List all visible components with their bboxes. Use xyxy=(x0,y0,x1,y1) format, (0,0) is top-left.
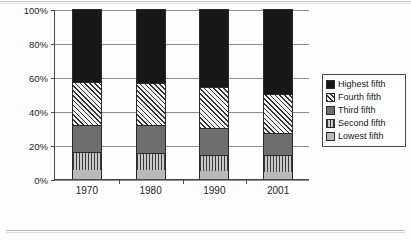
legend-item-label: Fourth fifth xyxy=(338,93,381,102)
x-tick-mark xyxy=(246,180,247,184)
legend-item-label: Lowest fifth xyxy=(338,132,384,141)
y-axis-tick-label: 0% xyxy=(34,175,48,186)
page-rule-top-2 xyxy=(0,3,411,4)
bar-segment-1970-third-fifth xyxy=(73,125,101,152)
bar-segment-1980-highest-fifth xyxy=(137,9,165,83)
x-tick-mark xyxy=(119,180,120,184)
page-rule-bottom xyxy=(6,230,405,231)
bar-segment-1990-fourth-fifth xyxy=(200,87,228,128)
bar-segment-2001-third-fifth xyxy=(264,133,292,155)
legend-swatch-icon xyxy=(326,132,335,141)
y-axis-tick-label: 80% xyxy=(29,39,48,50)
legend-item-second-fifth[interactable]: Second fifth xyxy=(326,117,402,130)
bar-segment-1990-second-fifth xyxy=(200,155,228,171)
legend-swatch-icon xyxy=(326,80,335,89)
y-tick-mark xyxy=(51,146,55,147)
x-axis-label-1970: 1970 xyxy=(76,185,98,196)
bar-segment-1980-fourth-fifth xyxy=(137,83,165,126)
bar-segment-1980-third-fifth xyxy=(137,125,165,152)
plot-area: 0%20%40%60%80%100% 1970198019902001 xyxy=(54,10,309,180)
bar-segment-1970-fourth-fifth xyxy=(73,82,101,125)
bar-segment-1980-second-fifth xyxy=(137,153,165,170)
legend-swatch-icon xyxy=(326,119,335,128)
x-tick-mark xyxy=(183,180,184,184)
chart-figure: 0%20%40%60%80%100% 1970198019902001 High… xyxy=(0,0,411,240)
y-axis-tick-label: 20% xyxy=(29,141,48,152)
y-axis-tick-label: 40% xyxy=(29,107,48,118)
y-tick-mark xyxy=(51,10,55,11)
bar-segment-2001-lowest-fifth xyxy=(264,172,292,179)
y-tick-mark xyxy=(51,78,55,79)
bar-1990 xyxy=(199,9,229,179)
bar-segment-1990-third-fifth xyxy=(200,128,228,155)
bar-segment-1990-highest-fifth xyxy=(200,9,228,87)
page-rule-top xyxy=(0,1,411,2)
bar-1970 xyxy=(72,9,102,179)
legend-swatch-icon xyxy=(326,106,335,115)
legend-item-label: Second fifth xyxy=(338,119,386,128)
bar-segment-1970-lowest-fifth xyxy=(73,170,101,179)
bar-segment-2001-second-fifth xyxy=(264,155,292,172)
legend-item-fourth-fifth[interactable]: Fourth fifth xyxy=(326,91,402,104)
bar-segment-2001-highest-fifth xyxy=(264,9,292,94)
legend-swatch-icon xyxy=(326,93,335,102)
x-axis-label-1990: 1990 xyxy=(203,185,225,196)
y-tick-mark xyxy=(51,44,55,45)
legend-item-highest-fifth[interactable]: Highest fifth xyxy=(326,78,402,91)
y-axis-tick-label: 100% xyxy=(24,5,48,16)
bar-segment-2001-fourth-fifth xyxy=(264,94,292,133)
legend-item-label: Third fifth xyxy=(338,106,376,115)
legend-item-lowest-fifth[interactable]: Lowest fifth xyxy=(326,130,402,143)
bar-segment-1970-second-fifth xyxy=(73,152,101,170)
legend: Highest fifthFourth fifthThird fifthSeco… xyxy=(322,74,406,147)
bar-segment-1970-highest-fifth xyxy=(73,9,101,82)
legend-item-third-fifth[interactable]: Third fifth xyxy=(326,104,402,117)
y-axis-tick-label: 60% xyxy=(29,73,48,84)
bar-segment-1980-lowest-fifth xyxy=(137,170,165,179)
bar-1980 xyxy=(136,9,166,179)
legend-item-label: Highest fifth xyxy=(338,80,386,89)
bar-2001 xyxy=(263,9,293,179)
x-axis-label-2001: 2001 xyxy=(267,185,289,196)
page-rule-bottom-2 xyxy=(6,232,405,233)
bar-segment-1990-lowest-fifth xyxy=(200,171,228,179)
y-tick-mark xyxy=(51,180,55,181)
x-axis-label-1980: 1980 xyxy=(140,185,162,196)
y-tick-mark xyxy=(51,112,55,113)
